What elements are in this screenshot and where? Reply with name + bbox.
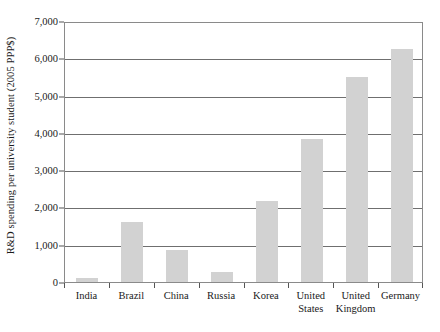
x-tick-mark	[333, 283, 334, 288]
x-tick-mark	[244, 283, 245, 288]
bar-slot	[334, 23, 379, 282]
x-tick-mark	[422, 283, 423, 288]
y-axis-title: R&D spending per university student (200…	[0, 0, 22, 290]
bar-slot	[65, 23, 110, 282]
y-tick-label: 5,000	[34, 91, 58, 102]
x-tick-label: Germany	[378, 290, 423, 303]
x-tick-mark	[109, 283, 110, 288]
x-tick-mark	[64, 283, 65, 288]
x-tick-label-line: Russia	[199, 290, 244, 303]
y-tick-label: 1,000	[34, 240, 58, 251]
plot-area	[64, 22, 423, 283]
x-tick-label-line: United	[288, 290, 333, 303]
x-axis-tick-labels: IndiaBrazilChinaRussiaKoreaUnitedStatesU…	[64, 290, 423, 330]
x-tick-label: India	[64, 290, 109, 303]
y-tick-label: 0	[53, 278, 58, 289]
bar-slot	[289, 23, 334, 282]
y-tick-label: 6,000	[34, 54, 58, 65]
bar-slot	[245, 23, 290, 282]
x-tick-mark	[288, 283, 289, 288]
bar[interactable]	[301, 139, 323, 282]
x-tick-label: Korea	[244, 290, 289, 303]
bar[interactable]	[76, 278, 98, 282]
x-tick-label-line: Korea	[244, 290, 289, 303]
bar[interactable]	[211, 272, 233, 282]
x-tick-label: Russia	[199, 290, 244, 303]
bar-slot	[200, 23, 245, 282]
y-tick-label: 7,000	[34, 17, 58, 28]
x-tick-label: China	[154, 290, 199, 303]
x-tick-label: UnitedStates	[288, 290, 333, 315]
y-tick-label: 2,000	[34, 203, 58, 214]
bar[interactable]	[391, 49, 413, 282]
bar[interactable]	[256, 201, 278, 282]
x-tick-label-line: Kingdom	[333, 303, 378, 316]
bar[interactable]	[121, 222, 143, 282]
x-tick-label-line: United	[333, 290, 378, 303]
x-tick-label-line: Germany	[378, 290, 423, 303]
bar-slot	[379, 23, 424, 282]
y-tick-label: 4,000	[34, 129, 58, 140]
y-axis-tick-labels: 01,0002,0003,0004,0005,0006,0007,000	[22, 22, 64, 283]
x-tick-label-line: Brazil	[109, 290, 154, 303]
bar-slot	[155, 23, 200, 282]
x-tick-mark	[154, 283, 155, 288]
y-tick-label: 3,000	[34, 166, 58, 177]
x-tick-label-line: China	[154, 290, 199, 303]
x-tick-label-line: India	[64, 290, 109, 303]
x-axis-ticks	[64, 283, 423, 289]
bar[interactable]	[346, 77, 368, 282]
x-tick-mark	[378, 283, 379, 288]
x-tick-mark	[199, 283, 200, 288]
x-tick-label: Brazil	[109, 290, 154, 303]
bar-chart: R&D spending per university student (200…	[0, 0, 440, 332]
x-tick-label: UnitedKingdom	[333, 290, 378, 315]
bar[interactable]	[166, 250, 188, 282]
x-tick-label-line: States	[288, 303, 333, 316]
bar-slot	[110, 23, 155, 282]
bars-layer	[65, 23, 422, 282]
y-axis-title-text: R&D spending per university student (200…	[6, 36, 17, 254]
